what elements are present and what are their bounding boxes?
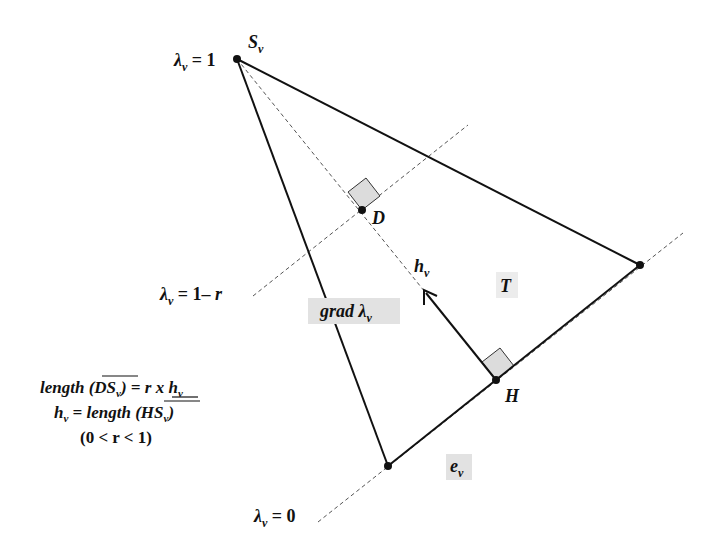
formula-line-2: hv = length (HSv) [54, 403, 174, 424]
point-h [492, 376, 500, 384]
formula-line-1: length (DSv) = r x hv [40, 378, 183, 399]
right-angle-h [482, 348, 514, 380]
point-bottom [384, 462, 392, 470]
label-lambda-0: λv = 0 [253, 506, 296, 530]
right-angle-d [348, 178, 380, 210]
altitude-line [237, 59, 425, 292]
triangle-t [237, 59, 640, 466]
label-s-v: Sv [248, 32, 264, 56]
edge-s-bottom [237, 59, 388, 466]
point-right [636, 261, 644, 269]
point-s [233, 55, 241, 63]
label-h: H [504, 386, 520, 406]
barycentric-diagram: Sv λv = 1 D hv T λv = 1– r grad λv H ev … [0, 0, 710, 541]
label-lambda-1: λv = 1 [173, 50, 216, 74]
points [233, 55, 644, 470]
label-t: T [500, 276, 512, 296]
label-d: D [371, 208, 385, 228]
point-d [358, 206, 366, 214]
edge-s-right [237, 59, 640, 265]
dashed-lines [237, 59, 683, 522]
formula-block: length (DSv) = r x hv hv = length (HSv) … [40, 376, 200, 447]
label-lambda-1-r: λv = 1– r [159, 284, 223, 308]
formula-line-3: (0 < r < 1) [80, 428, 152, 447]
label-h-v: hv [414, 256, 430, 280]
h-v-arrow [424, 290, 496, 380]
